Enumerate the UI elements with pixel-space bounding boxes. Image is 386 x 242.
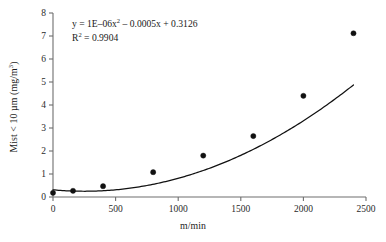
y-axis-title-micro: µ — [8, 105, 19, 111]
data-point — [201, 153, 206, 158]
y-tick-label: 2 — [41, 146, 46, 156]
y-tick-label: 4 — [41, 100, 46, 110]
y-axis-title-exponent: 3 — [7, 65, 14, 68]
trendline-curve — [53, 85, 353, 191]
regression-annotation: y = 1E–06x2 – 0.0005x + 0.3126 R2 = 0.99… — [72, 17, 198, 44]
y-axis-ticks — [49, 13, 53, 197]
y-axis-title-middle: m (mg/m — [8, 68, 19, 105]
x-tick-label: 1500 — [231, 204, 250, 214]
y-tick-label: 8 — [41, 8, 46, 18]
r-squared-suffix: = 0.9904 — [82, 32, 119, 43]
scatter-chart-figure: 05001000150020002500 012345678 y = 1E–06… — [0, 0, 386, 242]
y-tick-label: 7 — [41, 31, 46, 41]
y-tick-label: 0 — [41, 192, 46, 202]
data-point — [151, 170, 156, 175]
y-tick-label: 5 — [41, 77, 46, 87]
y-axis-tick-labels: 012345678 — [41, 8, 46, 202]
y-tick-label: 6 — [41, 54, 46, 64]
data-point — [301, 93, 306, 98]
y-axis-title-wrapper: Mist < 10 µm (mg/m3) — [3, 9, 21, 205]
r-squared-text: R2 = 0.9904 — [72, 31, 198, 45]
data-point — [100, 184, 105, 189]
y-axis-title: Mist < 10 µm (mg/m3) — [8, 61, 19, 152]
x-tick-label: 1000 — [169, 204, 188, 214]
x-axis-title: m/min — [0, 220, 386, 231]
x-tick-label: 2500 — [357, 204, 376, 214]
y-tick-label: 3 — [41, 123, 46, 133]
data-point — [50, 190, 55, 195]
equation-text: y = 1E–06x2 – 0.0005x + 0.3126 — [72, 17, 198, 31]
equation-prefix: y = 1E–06x — [72, 18, 117, 29]
y-axis-title-prefix: Mist < 10 — [8, 111, 19, 153]
x-tick-label: 2000 — [294, 204, 313, 214]
equation-suffix: – 0.0005x + 0.3126 — [120, 18, 197, 29]
data-point — [70, 188, 75, 193]
x-axis-ticks — [53, 197, 366, 201]
data-point — [251, 133, 256, 138]
x-tick-label: 500 — [108, 204, 123, 214]
x-tick-label: 0 — [51, 204, 56, 214]
x-axis-tick-labels: 05001000150020002500 — [51, 204, 376, 214]
data-point — [351, 31, 356, 36]
y-tick-label: 1 — [41, 169, 46, 179]
y-axis-title-suffix: ) — [8, 61, 19, 64]
